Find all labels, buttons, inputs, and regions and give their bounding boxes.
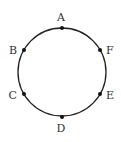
point-d-label: D — [57, 122, 66, 135]
point-d-dot — [60, 115, 64, 119]
point-f-dot — [98, 48, 102, 52]
point-e-label: E — [106, 89, 114, 102]
point-a-dot — [60, 26, 64, 30]
point-c-label: C — [9, 89, 17, 102]
points-group: ABCDEF — [9, 11, 114, 135]
point-c-dot — [22, 92, 26, 96]
point-a-label: A — [56, 11, 66, 24]
circle — [18, 28, 106, 116]
point-f-label: F — [106, 44, 114, 57]
point-b-label: B — [9, 44, 17, 57]
point-b-dot — [22, 48, 26, 52]
circle-diagram: ABCDEF — [0, 0, 121, 142]
point-e-dot — [98, 92, 102, 96]
